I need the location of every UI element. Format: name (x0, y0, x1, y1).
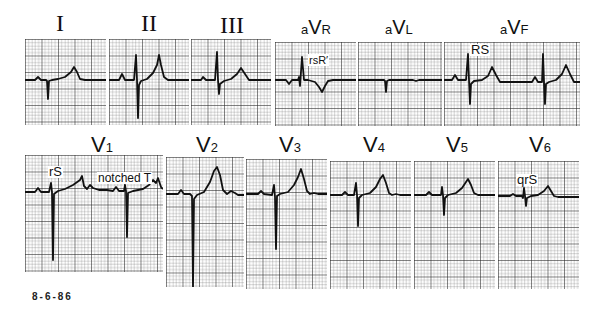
ecg-trace-V2 (166, 157, 244, 287)
lead-label-V2: V2 (196, 134, 218, 156)
lead-label-V5: V5 (446, 134, 468, 156)
ecg-panel-V1: rS notched T (25, 155, 163, 272)
ecg-panel-III (191, 39, 271, 125)
recording-date: 8-6-86 (32, 291, 73, 302)
lead-label-aVR: aVR (301, 17, 331, 37)
lead-label-V6: V6 (529, 134, 551, 156)
ecg-trace-V4 (330, 161, 411, 289)
ecg-panel-I (25, 39, 106, 125)
ecg-trace-V3 (246, 159, 327, 289)
ecg-panel-V5 (414, 161, 495, 289)
ecg-trace-V6 (498, 161, 579, 289)
ecg-panel-aVR: rsR′ (275, 42, 356, 126)
ecg-panel-V3 (246, 159, 327, 289)
ecg-trace-aVL (358, 42, 442, 126)
ecg-panel-V4 (330, 161, 411, 289)
ecg-trace-I (25, 39, 106, 125)
lead-label-aVL: aVL (385, 17, 413, 37)
ecg-panel-II (109, 39, 189, 125)
ecg-panel-aVL (358, 42, 442, 126)
ecg-trace-aVF (444, 42, 580, 126)
ecg-trace-V5 (414, 161, 495, 289)
ecg-trace-II (109, 39, 189, 125)
annotation-rsR-prime: rsR′ (308, 54, 329, 66)
lead-label-V1: V1 (91, 134, 113, 156)
annotation-rS: rS (48, 166, 63, 178)
ecg-panel-aVF: RS (444, 42, 580, 126)
annotation-RS: RS (470, 44, 490, 56)
lead-label-V3: V3 (279, 134, 301, 156)
lead-label-I: I (56, 11, 64, 35)
lead-label-III: III (220, 13, 244, 37)
lead-label-aVF: aVF (500, 17, 529, 37)
annotation-qrS: qrS (516, 174, 538, 186)
ecg-panel-V6: qrS (498, 161, 579, 289)
ecg-panel-V2 (166, 157, 244, 287)
ecg-trace-III (191, 39, 271, 125)
lead-label-V4: V4 (363, 134, 385, 156)
lead-label-II: II (141, 11, 157, 35)
annotation-notched-T: notched T (97, 172, 152, 184)
